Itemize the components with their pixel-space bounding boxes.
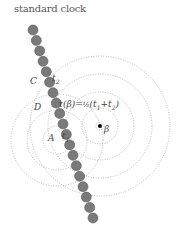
clock-bead-icon [68, 150, 78, 160]
label-A: A [48, 133, 55, 143]
clock-bead-icon [78, 182, 88, 192]
label-beta: β [104, 124, 109, 134]
clock-bead-icon [48, 88, 58, 98]
label-D: D [34, 102, 41, 112]
clock-bead-icon [31, 35, 41, 45]
label-tau-equation: τ(β)=½(t1+t2) [58, 99, 119, 111]
diagram-canvas [0, 0, 182, 234]
label-t1: t1 [62, 131, 69, 143]
label-t2: t2 [52, 73, 59, 85]
clock-bead-icon [38, 56, 48, 66]
clock-bead-icon [41, 67, 51, 77]
label-C: C [30, 76, 37, 86]
clock-bead-icon [81, 192, 91, 202]
clock-bead-icon [75, 171, 85, 181]
beta-point-icon [98, 124, 102, 128]
standard-clock-beads [28, 25, 98, 223]
clock-bead-icon [88, 213, 98, 223]
clock-bead-icon [58, 119, 68, 129]
clock-bead-icon [71, 161, 81, 171]
clock-bead-icon [35, 46, 45, 56]
clock-bead-icon [28, 25, 38, 35]
clock-bead-icon [85, 203, 95, 213]
